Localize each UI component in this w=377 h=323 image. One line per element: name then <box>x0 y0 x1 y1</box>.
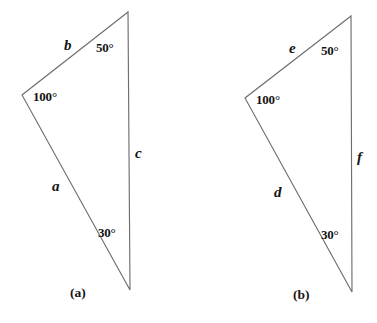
triangle-a-side-c-label: c <box>135 146 142 161</box>
triangle-b-angle-100-label: 100° <box>256 93 280 106</box>
triangle-b-side-d-label: d <box>274 185 282 200</box>
panel-b-caption: (b) <box>293 288 310 302</box>
triangle-b-angle-50-label: 50° <box>321 44 339 57</box>
geometry-figure: b 50° 100° a c 30° (a) e 50° 100° d f 30… <box>0 0 377 323</box>
triangle-a-side-b-label: b <box>64 38 72 53</box>
triangle-b-side-f-label: f <box>357 150 362 165</box>
triangle-a-angle-30-label: 30° <box>98 226 116 239</box>
triangle-a-angle-50-label: 50° <box>96 41 114 54</box>
panel-a-caption: (a) <box>70 286 86 300</box>
triangle-a-angle-100-label: 100° <box>33 90 57 103</box>
triangle-a-side-a-label: a <box>52 179 60 194</box>
triangle-a-outline <box>22 12 130 290</box>
triangle-b-angle-30-label: 30° <box>321 228 339 241</box>
triangle-b-side-e-label: e <box>289 41 296 56</box>
